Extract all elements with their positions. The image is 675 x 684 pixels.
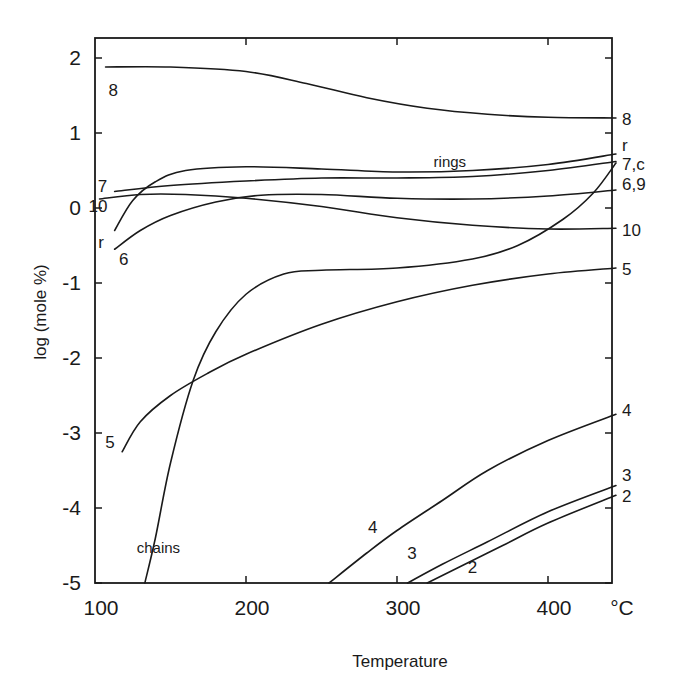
curve-label-right: 10 (622, 221, 641, 240)
curve-5 (122, 268, 616, 452)
x-tick-label: 100 (83, 596, 118, 619)
annotation-rings: rings (434, 153, 467, 170)
y-tick-label: -1 (62, 271, 81, 294)
curve-10 (100, 194, 616, 229)
curve-8 (106, 67, 616, 118)
y-tick-label: -3 (62, 421, 81, 444)
curve-label-right: r (622, 136, 628, 155)
curve-label-right: 6,9 (622, 175, 646, 194)
curve-label-left: 7 (98, 177, 107, 196)
x-axis-title: Temperature (352, 652, 447, 671)
y-tick-label: 2 (69, 46, 81, 69)
curve-label-left: 3 (407, 544, 416, 563)
curve-label-left: 5 (105, 433, 114, 452)
curve-label-left: 2 (468, 558, 477, 577)
y-axis-title: log (mole %) (31, 264, 50, 359)
curve-3 (408, 486, 616, 584)
curve-label-right: 7,c (622, 155, 645, 174)
y-tick-label: 0 (69, 196, 81, 219)
curve-label-left: 10 (89, 197, 108, 216)
curve-label-left: 8 (108, 81, 117, 100)
y-tick-label: -4 (62, 496, 81, 519)
curve-label-left: 6 (119, 250, 128, 269)
curve-label-right: 3 (622, 466, 631, 485)
x-tick-label: 200 (234, 596, 269, 619)
curve-label-right: 2 (622, 487, 631, 506)
chart-canvas: 210-1-2-3-4-5100200300400 8710r654328r7,… (0, 0, 675, 684)
plot-border (95, 38, 612, 583)
y-tick-label: 1 (69, 121, 81, 144)
curve-label-right: 5 (622, 260, 631, 279)
curve-2 (427, 495, 616, 583)
y-tick-label: -5 (62, 571, 81, 594)
data-curves (100, 67, 616, 583)
curve-label-left: r (98, 233, 104, 252)
curve-chains (145, 163, 616, 583)
curve-label-right: 4 (622, 401, 631, 420)
y-tick-label: -2 (62, 346, 81, 369)
curve-labels: 8710r654328r7,c6,9105432ringschains (89, 81, 646, 576)
curve-6 (115, 190, 616, 249)
annotation-chains: chains (137, 539, 180, 556)
curve-label-right: 8 (622, 110, 631, 129)
curve-label-left: 4 (368, 518, 377, 537)
x-tick-label: 300 (385, 596, 420, 619)
plot-frame (95, 38, 612, 583)
x-axis-unit: °C (610, 596, 634, 619)
curve-r-rings- (115, 154, 616, 231)
x-tick-label: 400 (536, 596, 571, 619)
